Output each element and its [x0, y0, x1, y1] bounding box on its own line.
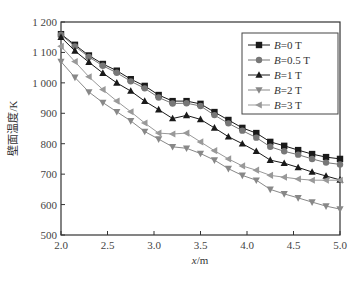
triangle-up-marker	[183, 112, 190, 119]
y-tick-label: 600	[41, 199, 58, 211]
triangle-down-marker	[336, 206, 343, 213]
x-tick-label: 3.5	[194, 239, 208, 251]
triangle-up-marker	[113, 79, 120, 86]
y-axis-title: 壁面温度/K	[6, 100, 19, 155]
triangle-left-marker	[211, 147, 218, 154]
legend-label: B=1 T	[274, 69, 302, 81]
triangle-left-marker	[239, 162, 246, 169]
legend-label: B=2 T	[274, 84, 302, 96]
y-axis-ticks: 5006007008009001 0001 1001 200	[32, 16, 65, 241]
circle-marker	[323, 159, 329, 165]
triangle-left-marker	[253, 167, 260, 174]
y-tick-label: 1 000	[32, 77, 57, 89]
x-tick-label: 4.0	[240, 239, 254, 251]
x-tick-label: 2.0	[54, 239, 68, 251]
triangle-left-marker	[183, 129, 190, 136]
triangle-down-marker	[225, 166, 232, 173]
circle-marker	[239, 127, 245, 133]
triangle-down-marker	[85, 89, 92, 96]
square-marker	[337, 156, 343, 162]
circle-marker	[114, 70, 120, 76]
circle-marker	[197, 103, 203, 109]
y-tick-label: 700	[41, 168, 58, 180]
legend: B=0 TB=0.5 TB=1 TB=2 TB=3 T	[242, 33, 338, 114]
triangle-left-marker	[225, 155, 232, 162]
x-tick-label: 3.0	[147, 239, 161, 251]
triangle-up-marker	[141, 97, 148, 104]
x-tick-label: 4.5	[287, 239, 301, 251]
triangle-left-marker	[294, 175, 301, 182]
circle-marker	[100, 63, 106, 69]
y-tick-label: 800	[41, 138, 58, 150]
triangle-left-marker	[280, 174, 287, 181]
y-tick-label: 900	[41, 107, 58, 119]
triangle-left-marker	[308, 177, 315, 184]
square-marker	[281, 143, 287, 149]
triangle-left-marker	[197, 138, 204, 145]
legend-label: B=0 T	[274, 39, 302, 51]
triangle-up-marker	[127, 87, 134, 94]
triangle-up-marker	[211, 124, 218, 131]
square-icon	[256, 42, 262, 48]
x-axis-ticks: 2.02.53.03.54.04.55.0	[54, 231, 347, 251]
circle-marker	[155, 94, 161, 100]
circle-marker	[309, 156, 315, 162]
triangle-up-marker	[85, 58, 92, 65]
circle-marker	[225, 120, 231, 126]
triangle-up-marker	[267, 156, 274, 163]
circle-marker	[142, 85, 148, 91]
triangle-down-marker	[253, 177, 260, 184]
y-tick-label: 1 100	[32, 46, 57, 58]
legend-label: B=0.5 T	[274, 54, 310, 66]
x-axis-unit: /m	[197, 254, 209, 266]
triangle-down-marker	[141, 129, 148, 136]
triangle-up-marker	[155, 106, 162, 113]
circle-marker	[211, 112, 217, 118]
legend-label: B=3 T	[274, 99, 302, 111]
triangle-left-marker	[169, 130, 176, 137]
triangle-up-marker	[253, 148, 260, 155]
circle-marker	[267, 144, 273, 150]
triangle-up-marker	[225, 133, 232, 140]
circle-marker	[253, 134, 259, 140]
triangle-down-marker	[99, 100, 106, 107]
triangle-down-marker	[113, 109, 120, 116]
circle-marker	[183, 100, 189, 106]
x-tick-label: 2.5	[101, 239, 115, 251]
circle-marker	[128, 78, 134, 84]
line-chart: 5006007008009001 0001 1001 200 2.02.53.0…	[0, 0, 362, 282]
x-axis-title: x/m	[191, 254, 209, 266]
circle-marker	[169, 100, 175, 106]
circle-marker	[337, 161, 343, 167]
triangle-left-marker	[266, 172, 273, 179]
triangle-up-marker	[239, 140, 246, 147]
triangle-down-marker	[211, 157, 218, 164]
y-tick-label: 1 200	[32, 16, 57, 28]
triangle-down-marker	[197, 151, 204, 158]
triangle-up-marker	[99, 69, 106, 76]
circle-marker	[295, 151, 301, 157]
triangle-down-marker	[155, 136, 162, 143]
x-tick-label: 5.0	[333, 239, 347, 251]
circle-icon	[256, 57, 262, 63]
square-marker	[323, 154, 329, 160]
circle-marker	[281, 148, 287, 154]
triangle-down-marker	[127, 118, 134, 125]
